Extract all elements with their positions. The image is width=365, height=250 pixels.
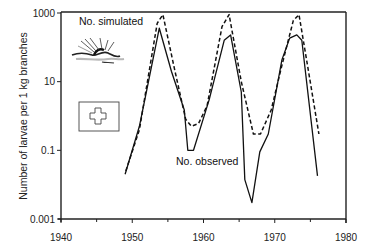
x-tick-label: 1950 [121, 232, 144, 243]
x-axis: 19401950196019701980 [50, 219, 358, 243]
y-tick-label: 0.001 [30, 214, 55, 225]
annotation-observed: No. observed [176, 155, 239, 167]
larva-on-branch-illustration [72, 38, 124, 63]
series-line-no-observed [125, 28, 317, 202]
y-tick-label: 10 [44, 76, 56, 87]
y-axis: 0.0010.1101000 [30, 8, 61, 225]
annotation-simulated: No. simulated [79, 15, 143, 27]
y-tick-label: 0.1 [41, 145, 55, 156]
x-tick-label: 1980 [335, 232, 358, 243]
x-tick-label: 1940 [50, 232, 73, 243]
series-lines [125, 15, 319, 203]
y-tick-label: 1000 [33, 8, 56, 19]
x-tick-label: 1960 [192, 232, 215, 243]
swiss-flag-icon [79, 102, 119, 131]
y-axis-label: Number of larvae per 1 kg branches [17, 32, 29, 200]
x-tick-label: 1970 [264, 232, 287, 243]
chart: 19401950196019701980 0.0010.1101000 Numb… [0, 0, 365, 250]
